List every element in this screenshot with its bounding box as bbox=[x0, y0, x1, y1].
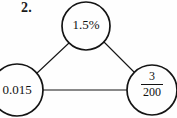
edge-top-to-bottom-left bbox=[36, 43, 69, 74]
node-value-decimal: 0.015 bbox=[0, 83, 44, 96]
fraction-numerator: 3 bbox=[140, 70, 164, 84]
edge-top-to-bottom-right bbox=[104, 42, 135, 73]
node-value-percent: 1.5% bbox=[62, 18, 110, 31]
fraction: 3 200 bbox=[140, 70, 164, 98]
fraction-denominator: 200 bbox=[140, 85, 164, 99]
diagram-page: 2. 1.5% 0.015 3 200 bbox=[0, 0, 177, 118]
node-value-fraction: 3 200 bbox=[128, 70, 176, 98]
